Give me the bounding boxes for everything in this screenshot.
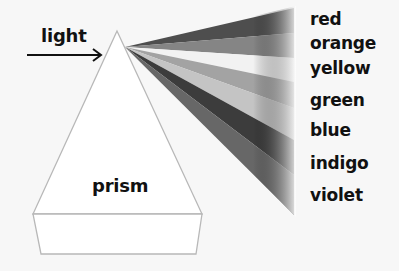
- color-label-green: green: [310, 92, 365, 109]
- color-label-orange: orange: [310, 35, 376, 52]
- prism-diagram: light prism red orange yellow green blue…: [0, 0, 399, 271]
- color-label-yellow: yellow: [310, 60, 370, 77]
- color-label-violet: violet: [310, 187, 363, 204]
- light-label: light: [41, 27, 87, 45]
- arrow-icon: [27, 49, 101, 61]
- color-label-blue: blue: [310, 122, 351, 139]
- prism-label: prism: [92, 177, 148, 195]
- color-label-indigo: indigo: [310, 155, 369, 172]
- color-label-red: red: [310, 11, 341, 28]
